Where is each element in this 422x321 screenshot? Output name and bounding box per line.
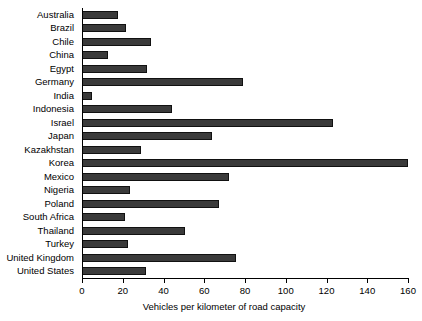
category-label: India [53, 91, 74, 101]
bar-row [82, 24, 408, 32]
bar [82, 240, 128, 248]
x-tick-label: 160 [400, 285, 416, 296]
category-label: Mexico [44, 172, 74, 182]
x-tick-label: 100 [278, 285, 294, 296]
category-label: Nigeria [44, 185, 74, 195]
bar [82, 11, 118, 19]
bar [82, 173, 229, 181]
bar [82, 38, 151, 46]
bar-row [82, 132, 408, 140]
x-tick [367, 278, 368, 283]
bar-row [82, 200, 408, 208]
bar-row [82, 78, 408, 86]
bar-row [82, 119, 408, 127]
x-tick-label: 140 [359, 285, 375, 296]
bar [82, 227, 185, 235]
category-label: Indonesia [33, 104, 74, 114]
category-label: Poland [44, 199, 74, 209]
category-label: United Kingdom [6, 253, 74, 263]
x-axis-title: Vehicles per kilometer of road capacity [0, 301, 422, 312]
x-tick [123, 278, 124, 283]
bar [82, 105, 172, 113]
bar-row [82, 267, 408, 275]
x-tick [408, 278, 409, 283]
category-label: Israel [51, 118, 74, 128]
category-label: Korea [49, 158, 74, 168]
bar-row [82, 159, 408, 167]
x-tick-label: 40 [158, 285, 169, 296]
bar [82, 267, 146, 275]
bar-row [82, 227, 408, 235]
category-label: China [49, 50, 74, 60]
x-tick [245, 278, 246, 283]
x-tick-label: 120 [319, 285, 335, 296]
x-tick-label: 0 [79, 285, 84, 296]
category-label: Kazakhstan [24, 145, 74, 155]
bar [82, 24, 126, 32]
category-label: Brazil [50, 23, 74, 33]
category-label: Germany [35, 77, 74, 87]
bar [82, 78, 243, 86]
x-tick [327, 278, 328, 283]
category-label: South Africa [23, 212, 74, 222]
category-label: United States [17, 266, 74, 276]
bar-row [82, 105, 408, 113]
bar [82, 186, 130, 194]
x-tick [82, 278, 83, 283]
category-label: Turkey [45, 239, 74, 249]
category-label: Egypt [50, 64, 74, 74]
bar [82, 254, 236, 262]
category-label: Japan [48, 131, 74, 141]
bar [82, 213, 125, 221]
plot-area [82, 8, 408, 278]
bar-row [82, 213, 408, 221]
bar [82, 200, 219, 208]
bar [82, 65, 147, 73]
bar-row [82, 11, 408, 19]
bar [82, 146, 141, 154]
bar [82, 51, 108, 59]
bar-row [82, 38, 408, 46]
x-tick-label: 60 [199, 285, 210, 296]
bar-row [82, 186, 408, 194]
category-label: Thailand [38, 226, 74, 236]
bar-row [82, 51, 408, 59]
category-axis-labels: AustraliaBrazilChileChinaEgyptGermanyInd… [0, 8, 78, 278]
bar-row [82, 173, 408, 181]
bar-row [82, 240, 408, 248]
bar-row [82, 65, 408, 73]
x-tick-label: 80 [240, 285, 251, 296]
category-label: Australia [37, 10, 74, 20]
bar [82, 132, 212, 140]
y-axis-line [82, 8, 83, 278]
bar-row [82, 254, 408, 262]
bar [82, 119, 333, 127]
x-axis-title-text: Vehicles per kilometer of road capacity [143, 301, 306, 312]
bar-chart: AustraliaBrazilChileChinaEgyptGermanyInd… [0, 0, 422, 321]
x-tick [164, 278, 165, 283]
bar-row [82, 146, 408, 154]
bar [82, 92, 92, 100]
bar-row [82, 92, 408, 100]
bar [82, 159, 408, 167]
category-label: Chile [52, 37, 74, 47]
x-tick [204, 278, 205, 283]
x-tick [286, 278, 287, 283]
x-tick-label: 20 [117, 285, 128, 296]
